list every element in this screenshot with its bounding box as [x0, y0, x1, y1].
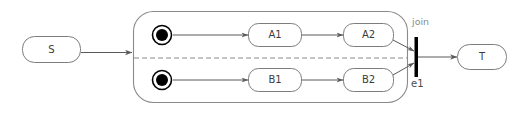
state-diagram-svg: S A1 A2 B1	[0, 0, 518, 122]
state-b2-label: B2	[362, 74, 375, 85]
state-a1-label: A1	[268, 29, 281, 40]
initial-state-bottom-inner-dot	[156, 74, 168, 86]
state-b1-label: B1	[268, 74, 281, 85]
state-b2[interactable]: B2	[344, 69, 394, 92]
join-label: join	[411, 16, 429, 27]
state-a2[interactable]: A2	[344, 24, 394, 47]
state-diagram-canvas: S A1 A2 B1	[0, 0, 518, 122]
state-s-label: S	[48, 44, 54, 55]
state-b1[interactable]: B1	[249, 69, 302, 92]
join-event-label: e1	[411, 78, 424, 89]
state-s[interactable]: S	[23, 37, 81, 63]
state-t[interactable]: T	[458, 45, 507, 70]
initial-state-top-inner-dot	[156, 29, 168, 41]
join-bar[interactable]	[415, 37, 419, 77]
initial-state-top[interactable]	[153, 26, 172, 45]
state-t-label: T	[478, 51, 486, 62]
state-a1[interactable]: A1	[249, 24, 302, 47]
initial-state-bottom[interactable]	[153, 71, 172, 90]
state-a2-label: A2	[362, 29, 375, 40]
